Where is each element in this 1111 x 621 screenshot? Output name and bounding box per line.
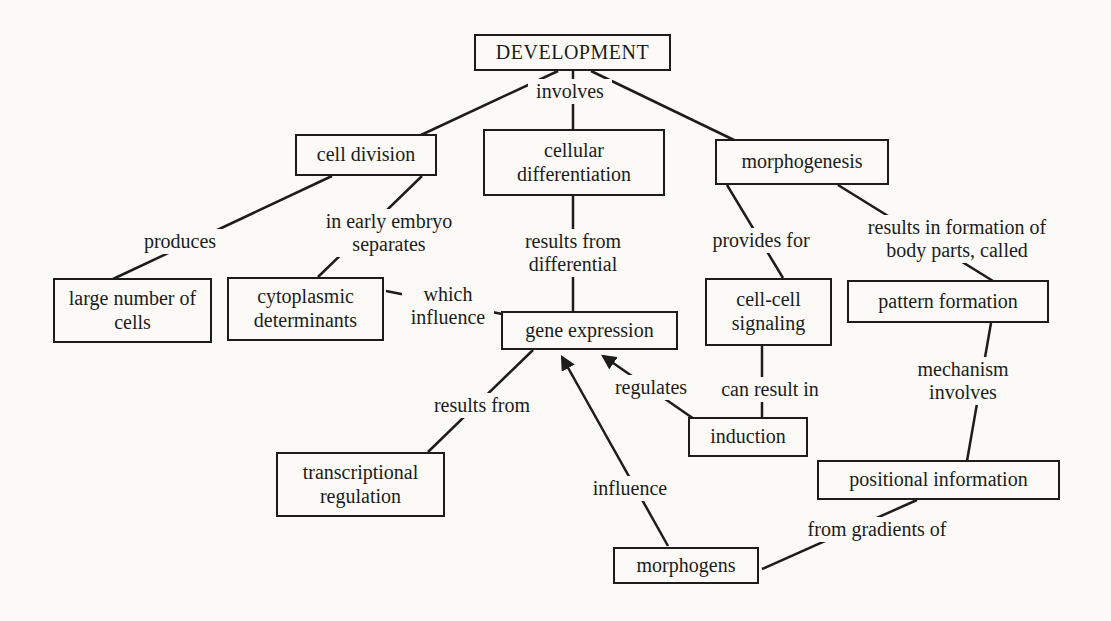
edge-label-results-in-formation: results in formation of body parts, call… — [857, 215, 1057, 263]
node-induction: induction — [688, 417, 808, 457]
edge-label-in-early-embryo-separates: in early embryo separates — [303, 209, 475, 257]
concept-map: involves produces in early embryo separa… — [0, 0, 1111, 621]
node-cell-cell-signaling: cell-cell signaling — [705, 278, 832, 346]
node-gene-expression: gene expression — [501, 311, 678, 350]
node-morphogens: morphogens — [613, 547, 759, 584]
node-positional-information: positional information — [817, 460, 1060, 500]
edge-label-can-result-in: can result in — [707, 377, 833, 402]
edge-label-influence: influence — [591, 476, 669, 501]
node-large-number-of-cells: large number of cells — [53, 278, 212, 343]
node-development: DEVELOPMENT — [474, 34, 671, 71]
edge-label-regulates: regulates — [607, 375, 695, 400]
edge-label-from-gradients-of: from gradients of — [792, 517, 962, 542]
node-transcriptional-regulation: transcriptional regulation — [276, 452, 445, 517]
edge-label-results-from-differential: results from differential — [498, 229, 648, 277]
node-morphogenesis: morphogenesis — [715, 139, 889, 185]
node-cytoplasmic-determinants: cytoplasmic determinants — [227, 277, 384, 341]
node-cellular-differentiation: cellular differentiation — [483, 129, 665, 196]
edge-label-provides-for: provides for — [700, 228, 822, 253]
node-pattern-formation: pattern formation — [847, 280, 1049, 323]
edge-label-results-from: results from — [423, 393, 541, 418]
edge-label-mechanism-involves: mechanism involves — [902, 357, 1024, 405]
edge-label-which-influence: which influence — [402, 282, 494, 330]
node-cell-division: cell division — [295, 134, 437, 176]
edge-cell-division-large-number — [113, 176, 332, 279]
edge-label-involves: involves — [528, 79, 612, 104]
edge-label-produces: produces — [133, 229, 227, 254]
